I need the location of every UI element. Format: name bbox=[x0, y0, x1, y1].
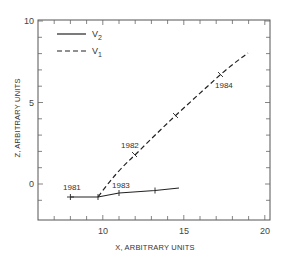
y-tick-label-5: 5 bbox=[29, 98, 34, 108]
y-axis-label: Z, ARBITRARY UNITS bbox=[13, 78, 22, 157]
y-tick-label-10: 10 bbox=[24, 16, 34, 26]
x-axis-top-ticks bbox=[54, 20, 265, 25]
annotation-1981: 1981 bbox=[63, 183, 81, 192]
x-axis-label: X, ARBITRARY UNITS bbox=[115, 243, 195, 252]
annotation-1983: 1983 bbox=[112, 181, 130, 190]
legend: V2 V1 bbox=[57, 29, 102, 58]
legend-v1-label: V1 bbox=[92, 46, 102, 58]
annotation-1984: 1984 bbox=[215, 81, 233, 90]
y-axis-right-ticks bbox=[265, 21, 270, 200]
x-tick-label-20: 20 bbox=[260, 226, 270, 236]
y-tick-label-0: 0 bbox=[29, 179, 34, 189]
x-tick-label-15: 15 bbox=[179, 226, 189, 236]
annotation-1982: 1982 bbox=[121, 141, 139, 150]
chart: 10 15 20 10 5 0 X, ARBITRARY UNITS Z, AR… bbox=[0, 0, 287, 270]
y-axis-ticks bbox=[38, 21, 43, 200]
x-tick-label-10: 10 bbox=[98, 226, 108, 236]
x-axis-ticks bbox=[54, 215, 265, 220]
legend-v2-label: V2 bbox=[92, 29, 102, 41]
series-v1-line bbox=[98, 53, 248, 197]
